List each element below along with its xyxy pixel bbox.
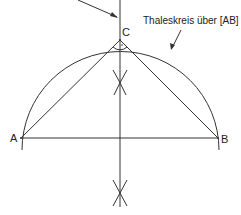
- right-angle-dot: [121, 44, 123, 46]
- point-c-label: C: [122, 27, 130, 38]
- segment-ac: [21, 40, 120, 138]
- segment-bc: [120, 40, 218, 138]
- point-c-dot: [119, 39, 121, 41]
- point-b-label: B: [221, 134, 228, 145]
- point-a-label: A: [10, 133, 17, 144]
- pointer-arrowhead-icon: [110, 12, 118, 18]
- thales-circle-annotation: Thaleskreis über [AB]: [143, 16, 239, 26]
- point-b-dot: [217, 137, 219, 139]
- point-a-dot: [20, 137, 22, 139]
- thales-construction-diagram: [0, 0, 241, 215]
